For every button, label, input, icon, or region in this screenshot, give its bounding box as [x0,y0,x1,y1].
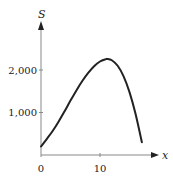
x-tick-labels: 010 [38,163,107,174]
x-axis-label: x [162,149,169,162]
chart: S x 010 1,0002,000 [0,0,173,182]
x-tick-label: 0 [38,163,44,174]
x-tick-label: 10 [94,163,107,174]
y-axis-label: S [38,8,46,21]
x-axis-arrow-icon [151,152,159,158]
y-axis-arrow-icon [38,21,44,30]
data-curve [41,59,142,147]
y-tick-label: 1,000 [8,107,37,118]
y-tick-labels: 1,0002,000 [8,65,37,119]
y-tick-label: 2,000 [8,65,37,76]
